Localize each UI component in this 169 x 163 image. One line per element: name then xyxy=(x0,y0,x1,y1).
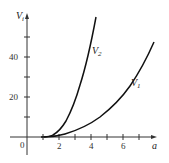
chart: 0 2 4 6 20 40 a Vi V2 V1 xyxy=(0,0,169,163)
y-tick-label-20: 20 xyxy=(9,92,19,102)
curve-label-v1: V1 xyxy=(131,77,141,90)
y-axis-label: Vi xyxy=(16,10,24,23)
x-axis-label: a xyxy=(152,140,157,151)
x-axis-arrow-icon xyxy=(151,135,157,139)
origin-label: 0 xyxy=(20,140,25,150)
x-tick-label-4: 4 xyxy=(89,141,94,151)
y-axis-arrow-icon xyxy=(25,13,29,19)
x-tick-label-2: 2 xyxy=(57,141,62,151)
curve-label-v2: V2 xyxy=(92,45,102,58)
curve-v2 xyxy=(41,17,96,137)
x-tick-label-6: 6 xyxy=(121,141,126,151)
y-tick-label-40: 40 xyxy=(9,52,19,62)
